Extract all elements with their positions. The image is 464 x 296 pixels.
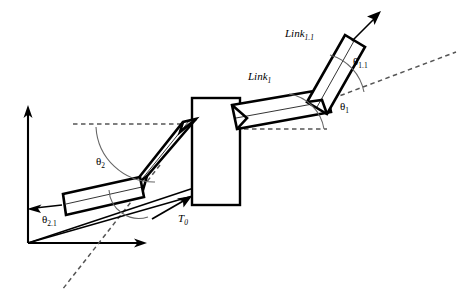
diagram-canvas: [0, 0, 464, 296]
label-theta-1-1: θ1.1: [353, 56, 368, 70]
t0-arrow-head: [177, 196, 192, 208]
label-theta-2-1-sub: 2.1: [47, 219, 56, 228]
label-theta-2: θ2: [96, 156, 105, 170]
link2-1-direction-arrowhead: [27, 205, 42, 214]
end-effector-direction-line: [352, 18, 375, 41]
label-link-1-base: Link: [248, 70, 268, 82]
label-t-0: T0: [178, 213, 188, 227]
label-theta-1-sub: 1: [345, 106, 349, 115]
label-theta-2-sub: 2: [101, 161, 105, 170]
label-link-1-1-sub: 1.1: [305, 33, 314, 42]
dashed-reference-lines: [62, 52, 456, 290]
label-link-1-1: Link1.1: [285, 28, 314, 42]
label-t-0-sub: 0: [184, 218, 188, 227]
label-theta-2-1: θ2.1: [42, 214, 57, 228]
label-theta-1: θ1: [340, 101, 349, 115]
label-theta-1-1-sub: 1.1: [358, 61, 367, 70]
kinematic-diagram-figure: Link1.1 Link1 θ1.1 θ1 θ2 θ2.1 T0: [0, 0, 464, 296]
label-link-1-sub: 1: [268, 76, 272, 85]
label-link-1: Link1: [248, 71, 271, 85]
right-arm-link1-1: [307, 11, 381, 114]
label-link-1-1-base: Link: [285, 27, 305, 39]
left-arm-link2-1: [27, 177, 144, 215]
